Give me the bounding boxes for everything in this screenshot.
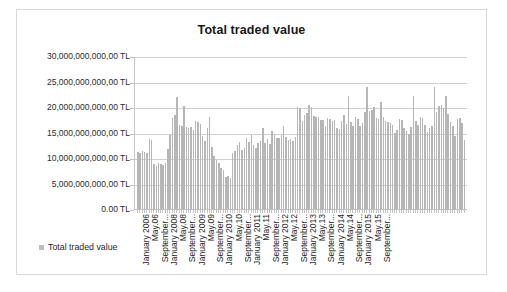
x-axis-tick-mark xyxy=(181,210,182,213)
bar xyxy=(441,105,443,209)
bar xyxy=(348,96,350,209)
x-axis-tick-mark xyxy=(246,210,247,213)
x-axis-tick-mark xyxy=(459,210,460,213)
bar xyxy=(200,124,202,209)
bar xyxy=(278,138,280,209)
x-axis-tick-mark xyxy=(431,210,432,213)
bar xyxy=(461,123,463,209)
bar xyxy=(313,116,315,209)
bar xyxy=(399,119,401,209)
bar xyxy=(190,127,192,209)
bar xyxy=(464,140,466,209)
bar xyxy=(162,165,164,209)
bar xyxy=(257,143,259,209)
x-axis-tick-mark xyxy=(290,210,291,213)
x-axis-tick-mark xyxy=(186,210,187,213)
bar xyxy=(438,106,440,209)
bar xyxy=(362,123,364,209)
x-axis-tick-mark xyxy=(271,210,272,213)
x-axis-tick-mark xyxy=(209,210,210,213)
x-axis-tick-mark xyxy=(248,210,249,213)
x-axis-tick-label: September... xyxy=(187,214,197,262)
x-axis-tick-mark xyxy=(156,210,157,213)
x-axis-tick-mark xyxy=(383,210,384,213)
x-axis-tick-mark xyxy=(445,210,446,213)
x-axis-tick-mark xyxy=(417,210,418,213)
bar xyxy=(264,143,266,209)
bar xyxy=(167,149,169,209)
bar xyxy=(213,156,215,209)
bar xyxy=(431,126,433,209)
y-axis-labels: 30,000,000,000,00 TL25,000,000,000,00 TL… xyxy=(17,57,130,210)
bar xyxy=(290,139,292,209)
bar xyxy=(172,118,174,209)
x-axis-tick-mark xyxy=(378,210,379,213)
x-axis-tick-mark xyxy=(299,210,300,213)
x-axis-tick-mark xyxy=(183,210,184,213)
bar xyxy=(153,164,155,209)
bar xyxy=(207,128,209,209)
x-axis-tick-mark xyxy=(334,210,335,213)
bar xyxy=(341,121,343,209)
bar xyxy=(220,168,222,209)
x-axis-tick-mark xyxy=(325,210,326,213)
x-axis-tick-mark xyxy=(348,210,349,213)
x-axis-tick-mark xyxy=(269,210,270,213)
x-axis-tick-mark xyxy=(295,210,296,213)
x-axis-tick-mark xyxy=(452,210,453,213)
bar xyxy=(320,120,322,209)
bar xyxy=(366,87,368,209)
legend-swatch-icon xyxy=(39,245,44,250)
x-axis-tick-mark xyxy=(253,210,254,213)
x-axis-tick-mark xyxy=(255,210,256,213)
chart-title: Total traded value xyxy=(17,23,486,37)
x-axis-tick-mark xyxy=(427,210,428,213)
bar xyxy=(186,127,188,209)
bar xyxy=(211,147,213,209)
bar xyxy=(151,140,153,209)
bar xyxy=(216,160,218,209)
bar xyxy=(169,135,171,209)
bar xyxy=(315,117,317,209)
bar xyxy=(378,119,380,209)
bar xyxy=(387,122,389,209)
bar xyxy=(350,122,352,209)
x-axis-tick-mark xyxy=(454,210,455,213)
x-axis-tick-mark xyxy=(327,210,328,213)
chart-legend: Total traded value xyxy=(39,242,117,252)
x-axis-tick-mark xyxy=(193,210,194,213)
bar xyxy=(225,177,227,209)
x-axis-tick-mark xyxy=(436,210,437,213)
bar xyxy=(144,152,146,209)
bar xyxy=(183,106,185,209)
bar xyxy=(452,126,454,209)
bar xyxy=(410,127,412,209)
bar xyxy=(334,120,336,209)
bar xyxy=(376,118,378,209)
bar xyxy=(299,108,301,209)
bar xyxy=(174,115,176,209)
bar xyxy=(188,128,190,209)
x-axis-tick-mark xyxy=(447,210,448,213)
x-axis-tick-mark xyxy=(267,210,268,213)
x-axis-tick-mark xyxy=(322,210,323,213)
x-axis-tick-mark xyxy=(162,210,163,213)
x-axis-tick-mark xyxy=(216,210,217,213)
bar xyxy=(364,112,366,209)
bar xyxy=(450,122,452,209)
x-axis-tick-mark xyxy=(373,210,374,213)
bar xyxy=(380,102,382,209)
bar xyxy=(304,115,306,209)
x-axis-tick-mark xyxy=(165,210,166,213)
bar xyxy=(355,117,357,209)
x-axis-tick-mark xyxy=(332,210,333,213)
x-axis-tick-mark xyxy=(443,210,444,213)
bar xyxy=(227,176,229,209)
bar xyxy=(251,135,253,209)
bar xyxy=(281,135,283,209)
x-axis-tick-mark xyxy=(401,210,402,213)
bar xyxy=(139,153,141,209)
bar xyxy=(403,128,405,209)
x-axis-tick-mark xyxy=(415,210,416,213)
x-axis-tick-mark xyxy=(406,210,407,213)
